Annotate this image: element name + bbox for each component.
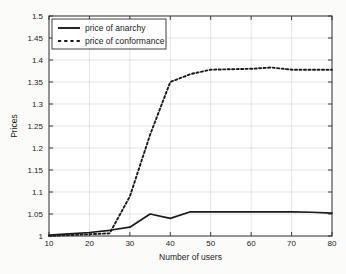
y-tick-label-10: 1.5 (32, 12, 44, 21)
chart-figure: 11.051.11.151.21.251.31.351.41.451.51020… (0, 0, 346, 274)
y-tick-label-2: 1.1 (32, 188, 44, 197)
y-tick-label-4: 1.2 (32, 144, 44, 153)
chart-legend: price of anarchyprice of conformance (52, 19, 166, 49)
x-tick-label-0: 10 (45, 239, 54, 248)
line-chart: 11.051.11.151.21.251.31.351.41.451.51020… (0, 0, 346, 274)
legend-label-1: price of conformance (85, 36, 165, 46)
y-tick-label-6: 1.3 (32, 100, 44, 109)
x-axis-label: Number of users (159, 252, 222, 262)
y-tick-label-8: 1.4 (32, 56, 44, 65)
y-tick-label-3: 1.15 (27, 166, 43, 175)
y-tick-label-1: 1.05 (27, 210, 43, 219)
x-tick-label-4: 50 (206, 239, 215, 248)
y-tick-label-5: 1.25 (27, 122, 43, 131)
x-tick-label-5: 60 (247, 239, 256, 248)
legend-label-0: price of anarchy (85, 23, 146, 33)
x-tick-label-3: 40 (166, 239, 175, 248)
y-axis-label: Prices (9, 114, 19, 138)
x-tick-label-7: 80 (328, 239, 337, 248)
y-tick-label-9: 1.45 (27, 34, 43, 43)
y-tick-label-0: 1 (39, 232, 44, 241)
y-tick-label-7: 1.35 (27, 78, 43, 87)
x-tick-label-1: 20 (85, 239, 94, 248)
x-tick-label-2: 30 (125, 239, 134, 248)
x-tick-label-6: 70 (287, 239, 296, 248)
